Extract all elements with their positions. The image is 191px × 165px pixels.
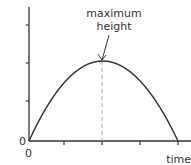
x-origin-label: 0: [25, 147, 32, 160]
chart: maximum height 0 0 time: [0, 0, 191, 165]
annotation-line2: height: [96, 20, 132, 33]
annotation-arrow: [98, 35, 109, 60]
annotation-line1: maximum: [86, 7, 141, 20]
trajectory-curve: [29, 61, 178, 141]
x-axis-label: time: [166, 153, 191, 165]
